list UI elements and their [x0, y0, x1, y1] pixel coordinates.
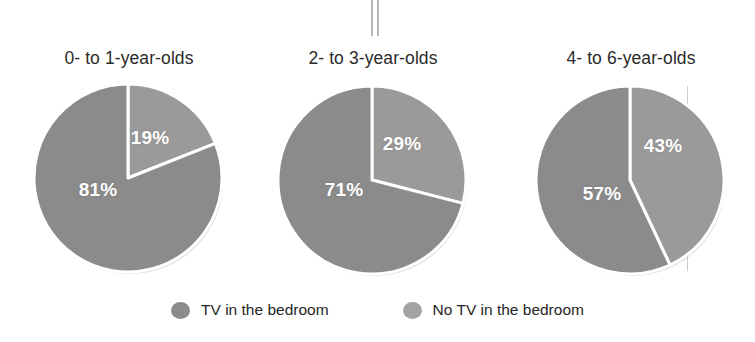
scan-artifact-line	[371, 0, 373, 36]
pie-chart-1: 29%71%	[276, 84, 468, 276]
pie-chart-0: 19%81%	[32, 82, 224, 274]
pie-svg-2	[534, 84, 726, 276]
pie-svg-1	[276, 84, 468, 276]
slice-percent-label: 29%	[383, 133, 422, 155]
panel-title-2: 4- to 6-year-olds	[520, 48, 742, 69]
pie-chart-2: 43%57%	[534, 84, 726, 276]
slice-percent-label: 71%	[325, 179, 364, 201]
slice-percent-label: 43%	[644, 135, 683, 157]
legend-label: TV in the bedroom	[201, 301, 329, 319]
panel-title-1: 2- to 3-year-olds	[262, 48, 484, 69]
pie-chart-figure: 0- to 1-year-olds 19%81% 2- to 3-year-ol…	[0, 0, 755, 342]
legend-swatch-icon	[403, 302, 422, 319]
legend-item[interactable]: No TV in the bedroom	[403, 301, 584, 319]
slice-percent-label: 19%	[131, 127, 170, 149]
slice-percent-label: 81%	[79, 179, 118, 201]
panel-title-0: 0- to 1-year-olds	[18, 48, 240, 69]
chart-legend: TV in the bedroomNo TV in the bedroom	[0, 296, 755, 324]
scan-artifact-line	[377, 0, 379, 36]
legend-item[interactable]: TV in the bedroom	[171, 301, 329, 319]
legend-swatch-icon	[171, 302, 190, 319]
legend-label: No TV in the bedroom	[433, 301, 584, 319]
pie-svg-0	[32, 82, 224, 274]
slice-percent-label: 57%	[583, 183, 622, 205]
